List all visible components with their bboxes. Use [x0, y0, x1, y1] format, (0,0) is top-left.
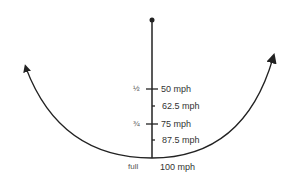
pivot-dot	[150, 18, 155, 23]
fraction-full: full	[128, 162, 138, 172]
speed-label-50: 50 mph	[161, 84, 191, 94]
speed-label-87-5: 87.5 mph	[162, 135, 200, 145]
speed-label-62-5: 62.5 mph	[162, 101, 200, 111]
swing-arc-left-arrow	[26, 68, 60, 130]
pendulum-speed-diagram	[0, 0, 301, 187]
speed-label-100: 100 mph	[160, 162, 195, 172]
swing-arc	[26, 58, 273, 158]
fraction-half: ½	[133, 84, 140, 94]
fraction-three-quarters: ¾	[133, 119, 140, 129]
speed-label-75: 75 mph	[161, 119, 191, 129]
